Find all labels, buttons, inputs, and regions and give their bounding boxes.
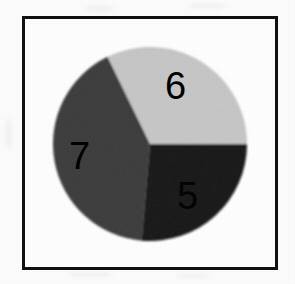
scan-artifact — [70, 272, 110, 276]
pie-slice-label-5: 5 — [177, 177, 198, 215]
scan-artifact — [6, 120, 11, 148]
pie-slice-label-6: 6 — [165, 67, 186, 105]
scan-artifact — [178, 274, 208, 278]
scan-artifact — [190, 4, 224, 8]
pie-chart: 6 7 5 — [25, 19, 275, 267]
scan-artifact — [86, 6, 112, 11]
pie-slice-label-7: 7 — [69, 137, 90, 175]
pie-chart-svg — [25, 19, 275, 267]
chart-frame: 6 7 5 — [22, 16, 278, 270]
scanned-page: 6 7 5 — [0, 0, 295, 284]
